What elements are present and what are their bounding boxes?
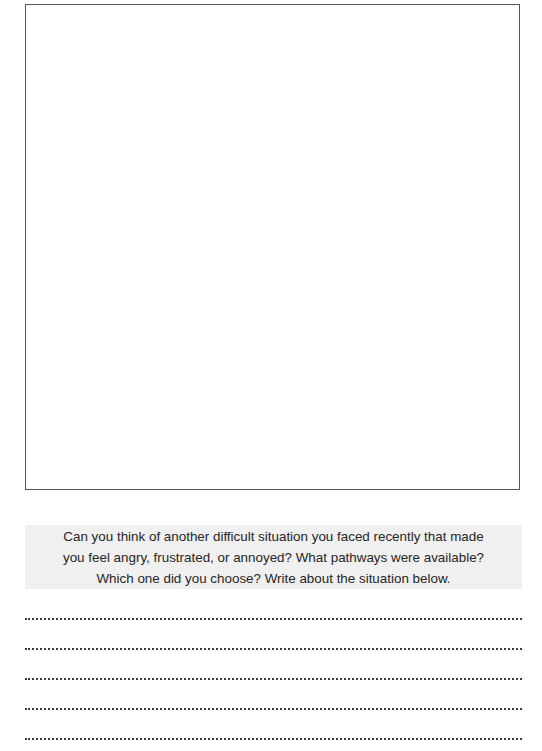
writing-line-1[interactable] (25, 618, 522, 620)
prompt-text: Can you think of another difficult situa… (39, 526, 509, 589)
prompt-band: Can you think of another difficult situa… (25, 525, 522, 589)
writing-line-4[interactable] (25, 708, 522, 710)
writing-line-5[interactable] (25, 738, 522, 740)
drawing-box[interactable] (25, 4, 520, 490)
prompt-line-1: Can you think of another difficult situa… (63, 529, 483, 544)
prompt-line-2: you feel angry, frustrated, or annoyed? … (63, 550, 484, 565)
writing-line-3[interactable] (25, 678, 522, 680)
prompt-line-3: Which one did you choose? Write about th… (96, 571, 450, 586)
writing-line-2[interactable] (25, 648, 522, 650)
